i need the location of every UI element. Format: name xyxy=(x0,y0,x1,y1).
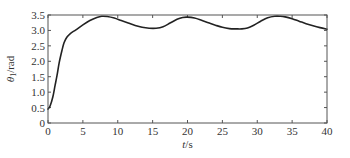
x-axis-unit: /s xyxy=(185,138,192,150)
tick-label: 1.5 xyxy=(31,71,45,83)
y-axis-unit: /rad xyxy=(4,55,16,73)
tick-label: 10 xyxy=(112,125,124,137)
plot-frame xyxy=(48,15,327,123)
tick-label: 5 xyxy=(80,125,86,137)
x-axis-label: t/s xyxy=(182,138,192,150)
tick-label: 40 xyxy=(322,125,334,137)
tick-label: 30 xyxy=(252,125,264,137)
tick-label: 3.5 xyxy=(31,9,45,21)
tick-label: 35 xyxy=(287,125,299,137)
tick-label: 1.0 xyxy=(31,86,45,98)
tick-marks xyxy=(48,15,327,123)
tick-label: 2.5 xyxy=(31,40,45,52)
y-axis-label: θ1/rad xyxy=(4,55,18,82)
tick-label: 3.0 xyxy=(31,24,45,36)
tick-label: 0.5 xyxy=(31,102,45,114)
tick-label: 25 xyxy=(217,125,229,137)
tick-label: 2.0 xyxy=(31,55,45,67)
tick-label: 0 xyxy=(45,125,51,137)
line-chart: 051015202530354000.51.01.52.02.53.03.5 t… xyxy=(0,0,350,158)
tick-label: 20 xyxy=(182,125,194,137)
tick-label: 0 xyxy=(40,117,46,129)
tick-label: 15 xyxy=(147,125,159,137)
tick-labels: 051015202530354000.51.01.52.02.53.03.5 xyxy=(31,9,333,137)
theta1-series-line xyxy=(48,16,327,109)
